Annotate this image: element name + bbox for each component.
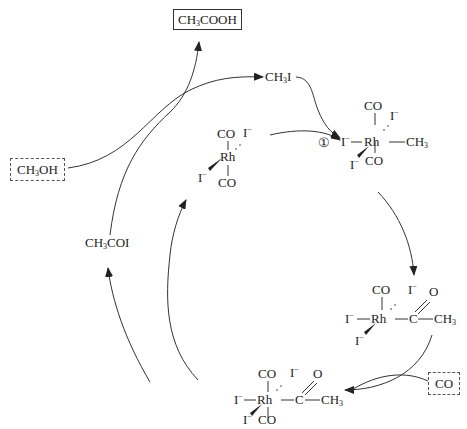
rhodium-center: Rh bbox=[220, 150, 235, 164]
methyl-group: CH3 bbox=[321, 393, 343, 407]
acetyl-iodide-label: CH3COI bbox=[85, 236, 129, 250]
arrow-to-acetyl-iodide bbox=[108, 268, 150, 382]
methyl-group: CH3 bbox=[434, 312, 456, 326]
methyl-iodide-label: CH3I bbox=[265, 70, 291, 84]
ligand-iodide: I− bbox=[243, 413, 252, 427]
ligand-iodide: I− bbox=[234, 393, 243, 407]
co-reactant-box: CO bbox=[428, 372, 460, 395]
formula-text: CO bbox=[435, 376, 453, 391]
formula-text: CH bbox=[17, 162, 35, 177]
ligand-iodide: I− bbox=[408, 283, 417, 297]
ligand-co: CO bbox=[372, 283, 390, 297]
step-marker-1: ① bbox=[318, 136, 329, 147]
acyl-carbon: C bbox=[295, 393, 304, 407]
ligand-iodide: I− bbox=[198, 171, 207, 185]
methyl-group: CH3 bbox=[406, 135, 428, 149]
ligand-iodide: I− bbox=[341, 135, 350, 149]
methanol-reactant-box: CH3OH bbox=[10, 158, 65, 181]
rhodium-center: Rh bbox=[371, 312, 386, 326]
arrow-to-catalyst bbox=[168, 200, 198, 380]
acyl-carbon: C bbox=[409, 312, 418, 326]
ligand-iodide: I− bbox=[350, 158, 359, 172]
ligand-co: CO bbox=[218, 176, 236, 190]
formula-text: CH bbox=[178, 12, 196, 27]
ligand-co: CO bbox=[217, 127, 235, 141]
ligand-iodide: I− bbox=[355, 334, 364, 348]
rhodium-center: Rh bbox=[364, 135, 379, 149]
carbonyl-oxygen: O bbox=[429, 285, 438, 299]
ligand-co: CO bbox=[365, 154, 383, 168]
rhodium-center: Rh bbox=[257, 393, 272, 407]
ligand-iodide: I− bbox=[290, 366, 299, 380]
ligand-iodide: I− bbox=[390, 109, 399, 123]
acetic-acid-product-box: CH3COOH bbox=[173, 9, 242, 30]
ligand-iodide: I− bbox=[243, 126, 252, 140]
ligand-co: CO bbox=[364, 99, 382, 113]
arrow-methyl-to-acyl bbox=[378, 192, 414, 275]
ligand-co: CO bbox=[258, 367, 276, 381]
ligand-co: CO bbox=[258, 413, 276, 427]
formula-text: OH bbox=[39, 162, 58, 177]
ligand-iodide: I− bbox=[345, 312, 354, 326]
arrow-acetyl-iodide-to-acetic-acid bbox=[110, 42, 199, 235]
carbonyl-oxygen: O bbox=[313, 367, 322, 381]
formula-text: COOH bbox=[200, 12, 237, 27]
cycle-arrows bbox=[0, 0, 467, 429]
arrow-methyl-iodide-to-complex bbox=[296, 77, 340, 138]
